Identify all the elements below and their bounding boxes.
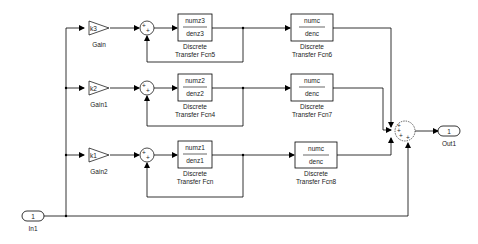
tf-denominator: denz2 [186, 90, 204, 97]
gain-label: Gain1 [90, 101, 108, 108]
tf-denominator: denc [305, 30, 320, 37]
tf-numerator: numc [308, 145, 325, 152]
output-sum-block[interactable]: + + + + [395, 121, 415, 141]
tf-denominator: denc [305, 90, 320, 97]
gain-label: Gain2 [90, 168, 108, 175]
tf-numerator: numc [304, 17, 321, 24]
tf-numerator: numz1 [185, 144, 205, 151]
tf-denominator: denz3 [186, 30, 204, 37]
block-label: Transfer Fcn4 [175, 111, 216, 118]
block-label: Transfer Fcn8 [296, 178, 337, 185]
inport-in1[interactable]: 1 In1 [22, 211, 44, 232]
block-label: Discrete [304, 170, 328, 177]
junction-dots [65, 27, 244, 217]
discrete-transfer-fcn6[interactable]: numc denc Discrete Transfer Fcn6 [291, 14, 333, 58]
outport-number: 1 [447, 128, 451, 135]
gain-block-gain2[interactable]: k1 Gain2 [89, 148, 109, 175]
tf-numerator: numc [304, 77, 321, 84]
block-label: Transfer Fcn5 [175, 51, 216, 58]
block-label: Discrete [300, 43, 324, 50]
discrete-transfer-fcn[interactable]: numz1 denz1 Discrete Transfer Fcn [177, 141, 214, 185]
simulink-diagram: 1 In1 1 Out1 + + + + k3 Gain + + numz3 d… [0, 0, 478, 244]
tf-numerator: numz3 [185, 17, 205, 24]
tf-numerator: numz2 [185, 77, 205, 84]
gain-value: k3 [90, 25, 97, 32]
sum-block[interactable]: + + [140, 81, 154, 95]
outport-out1[interactable]: 1 Out1 [438, 126, 460, 147]
sum-sign: + [146, 27, 150, 34]
gain-block-gain[interactable]: k3 Gain [89, 21, 109, 48]
outport-label: Out1 [442, 140, 456, 147]
sum-block[interactable]: + + [140, 21, 154, 35]
tf-denominator: denz1 [186, 157, 204, 164]
discrete-transfer-fcn4[interactable]: numz2 denz2 Discrete Transfer Fcn4 [175, 74, 216, 118]
block-label: Transfer Fcn [177, 178, 214, 185]
sum-sign: + [146, 87, 150, 94]
sum-sign: + [406, 134, 410, 141]
inport-number: 1 [31, 213, 35, 220]
signal-wires [44, 28, 438, 216]
block-label: Discrete [183, 170, 207, 177]
block-label: Discrete [183, 103, 207, 110]
block-label: Discrete [183, 43, 207, 50]
gain-block-gain1[interactable]: k2 Gain1 [89, 81, 109, 108]
block-label: Transfer Fcn7 [292, 111, 333, 118]
block-label: Discrete [300, 103, 324, 110]
tf-denominator: denc [309, 158, 324, 165]
gain-value: k1 [90, 152, 97, 159]
sum-block[interactable]: + + [140, 148, 154, 162]
sum-sign: + [399, 132, 403, 139]
sum-sign: + [146, 154, 150, 161]
discrete-transfer-fcn8[interactable]: numc denc Discrete Transfer Fcn8 [295, 142, 337, 185]
discrete-transfer-fcn5[interactable]: numz3 denz3 Discrete Transfer Fcn5 [175, 14, 216, 58]
gain-label: Gain [92, 41, 106, 48]
block-label: Transfer Fcn6 [292, 51, 333, 58]
discrete-transfer-fcn7[interactable]: numc denc Discrete Transfer Fcn7 [291, 74, 333, 118]
gain-value: k2 [90, 85, 97, 92]
inport-label: In1 [28, 225, 37, 232]
